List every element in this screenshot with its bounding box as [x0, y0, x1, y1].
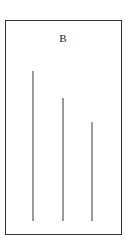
vertical-line-1 — [32, 71, 34, 221]
vertical-line-3 — [91, 122, 93, 221]
figure-label: B — [0, 33, 126, 44]
vertical-line-2 — [62, 98, 64, 221]
